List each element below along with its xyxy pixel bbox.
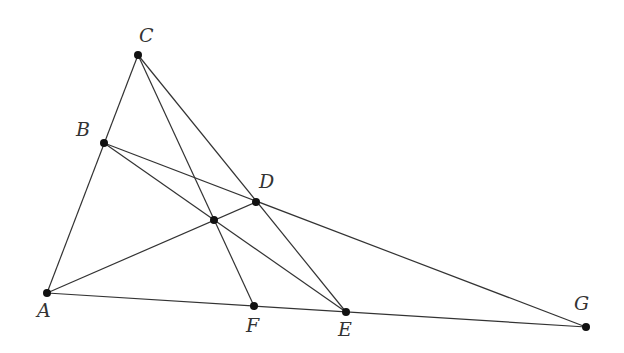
point-A (43, 289, 51, 297)
point-G (582, 323, 590, 331)
point-F (250, 302, 258, 310)
point-E (342, 308, 350, 316)
segment-AC (47, 55, 138, 293)
point-B (100, 139, 108, 147)
segment-BE (104, 143, 346, 312)
label-G: G (574, 292, 589, 314)
label-C: C (139, 24, 154, 46)
label-D: D (259, 170, 274, 192)
point-C (134, 51, 142, 59)
point-intersection (210, 216, 218, 224)
segment-CF (138, 55, 254, 306)
label-E: E (338, 318, 352, 340)
point-D (252, 198, 260, 206)
label-F: F (246, 314, 259, 336)
segment-AG (47, 293, 586, 327)
label-A: A (37, 299, 51, 321)
segment-CE (138, 55, 346, 312)
label-B: B (76, 118, 90, 140)
segment-BG (104, 143, 586, 327)
geometry-diagram (0, 0, 624, 353)
segment-AD (47, 202, 256, 293)
